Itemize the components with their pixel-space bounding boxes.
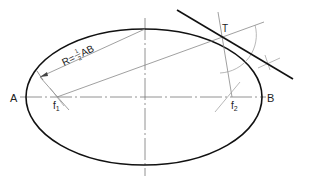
label-f1: f1 [53, 100, 60, 112]
label-b: B [267, 92, 274, 104]
diagram-svg: A B T f1 f2 R= 1 2 AB [0, 0, 310, 187]
label-a: A [10, 92, 18, 104]
radius-arrowhead [40, 72, 48, 77]
label-t: T [222, 23, 228, 34]
radius-label: R= 1 2 AB [59, 41, 96, 69]
focal-line-f1 [57, 22, 264, 97]
radius-tick [37, 71, 43, 80]
svg-text:AB: AB [79, 43, 96, 59]
svg-text:R=: R= [60, 52, 77, 68]
tangent-line [177, 10, 293, 79]
label-f2: f2 [231, 100, 238, 112]
ellipse-diagram: A B T f1 f2 R= 1 2 AB [0, 0, 310, 187]
